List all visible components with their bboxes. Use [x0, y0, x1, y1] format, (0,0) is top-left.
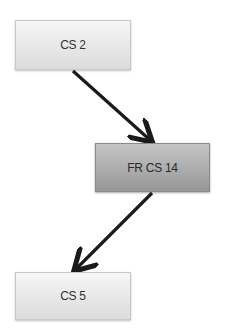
- node-label: FR CS 14: [127, 161, 177, 175]
- node-cs-2: CS 2: [15, 20, 131, 70]
- node-label: CS 2: [60, 38, 85, 52]
- arrow-frcs14-to-cs5: [76, 193, 152, 269]
- node-cs-5: CS 5: [15, 272, 131, 320]
- arrow-cs2-to-frcs14: [73, 71, 150, 140]
- node-fr-cs-14: FR CS 14: [95, 143, 210, 192]
- node-label: CS 5: [60, 289, 85, 303]
